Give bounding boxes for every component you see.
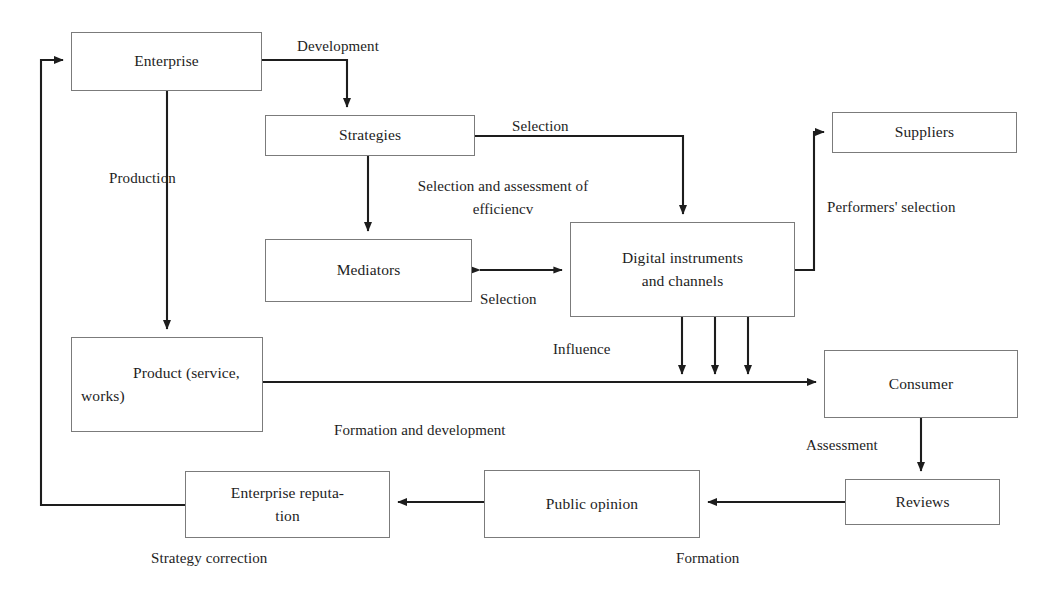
edge-label-assessment: Assessment (806, 434, 946, 457)
node-strategies-label: Strategies (333, 124, 407, 146)
edge-reputation-to-enterprise (41, 60, 185, 505)
edge-label-development: Development (297, 35, 437, 58)
node-reviews[interactable]: Reviews (845, 479, 1000, 525)
node-enterprise-reputation-label: Enterprise reputa- tion (225, 482, 350, 527)
edge-enterprise-to-strategies (262, 60, 347, 107)
node-product-label: Product (service, works) (72, 362, 246, 407)
edge-label-selection-strategies: Selection (512, 115, 622, 138)
edge-label-selection-assessment: Selection and assessment of efficiencv (388, 175, 618, 220)
node-suppliers-label: Suppliers (889, 121, 960, 143)
edge-label-performers-selection: Performers' selection (827, 196, 1037, 219)
node-enterprise[interactable]: Enterprise (71, 32, 262, 91)
node-reviews-label: Reviews (889, 491, 955, 513)
node-mediators[interactable]: Mediators (265, 239, 472, 302)
node-enterprise-reputation[interactable]: Enterprise reputa- tion (185, 471, 390, 538)
edge-label-formation-development: Formation and development (334, 419, 624, 442)
node-public-opinion-label: Public opinion (540, 493, 644, 515)
node-enterprise-label: Enterprise (128, 50, 205, 72)
node-consumer[interactable]: Consumer (824, 350, 1018, 418)
edge-label-formation: Formation (676, 547, 806, 570)
edge-label-strategy-correction: Strategy correction (151, 547, 361, 570)
edge-label-production: Production (109, 167, 219, 190)
node-mediators-label: Mediators (331, 259, 407, 281)
edge-digital-instruments-to-suppliers (795, 132, 824, 270)
node-digital-instruments-label: Digital instruments and channels (616, 247, 749, 292)
node-strategies[interactable]: Strategies (265, 115, 475, 156)
node-digital-instruments[interactable]: Digital instruments and channels (570, 222, 795, 317)
node-suppliers[interactable]: Suppliers (832, 112, 1017, 153)
edge-label-selection-mediators: Selection (480, 288, 590, 311)
edge-label-influence: Influence (553, 338, 673, 361)
diagram-canvas: Enterprise Strategies Mediators Digital … (0, 0, 1056, 591)
node-consumer-label: Consumer (883, 373, 960, 395)
node-product[interactable]: Product (service, works) (71, 337, 263, 432)
node-public-opinion[interactable]: Public opinion (484, 470, 700, 538)
